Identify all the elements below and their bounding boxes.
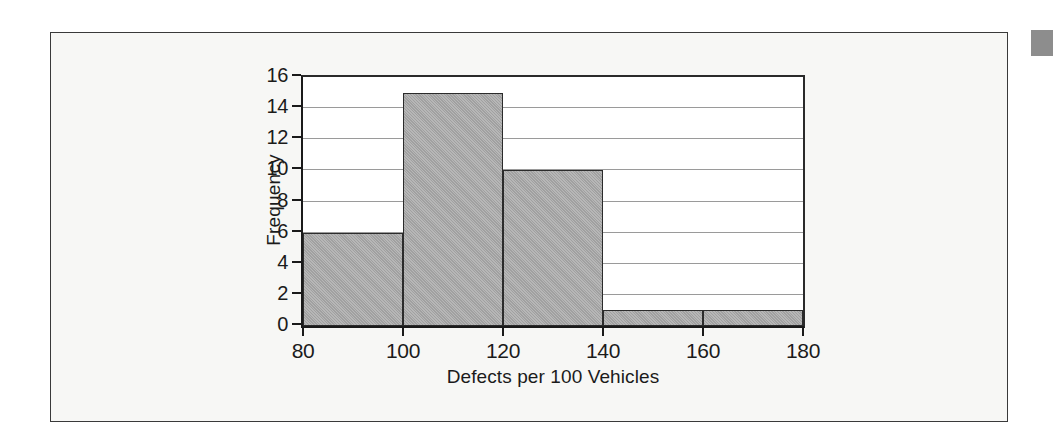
y-axis-tick [292,230,301,232]
y-axis-tick-label: 6 [277,219,288,242]
x-axis-tick [502,326,504,336]
x-axis-tick-label: 160 [686,339,720,363]
histogram-bar [403,93,503,326]
y-axis-tick-label: 12 [267,126,288,149]
figure-card: Frequency 0246810121416 8010012014016018… [50,32,1008,422]
y-axis-tick-label: 16 [267,64,288,87]
x-axis-tick [402,326,404,336]
y-axis-tick [292,167,301,169]
corner-marker-block [1031,30,1053,56]
histogram-bar [303,233,403,326]
plot-area [301,75,805,328]
histogram-bar [503,170,603,326]
y-axis-ticks: 0246810121416 [301,75,302,324]
y-axis-tick [292,323,301,325]
x-axis-tick [302,326,304,336]
x-axis-tick [802,326,804,336]
y-axis-tick-label: 0 [277,313,288,336]
histogram-chart: Frequency 0246810121416 8010012014016018… [51,33,1009,423]
y-axis-tick-label: 14 [267,95,288,118]
y-axis-tick [292,74,301,76]
y-axis-tick-label: 10 [267,157,288,180]
histogram-bar [603,310,703,326]
page-root: Frequency 0246810121416 8010012014016018… [0,0,1053,445]
y-axis-tick [292,136,301,138]
y-axis-tick-label: 8 [277,188,288,211]
x-axis-tick [702,326,704,336]
x-axis-ticks: 80100120140160180 [303,326,803,370]
y-axis-tick-label: 2 [277,281,288,304]
x-axis-tick-label: 100 [386,339,420,363]
x-axis-tick [602,326,604,336]
y-axis-tick-label: 4 [277,250,288,273]
y-axis-tick [292,292,301,294]
y-axis-tick [292,261,301,263]
x-axis-tick-label: 80 [292,339,315,363]
histogram-bar [703,310,803,326]
y-axis-tick [292,199,301,201]
x-axis-tick-label: 140 [586,339,620,363]
x-axis-tick-label: 180 [786,339,820,363]
x-axis-tick-label: 120 [486,339,520,363]
bar-series [303,77,803,326]
y-axis-tick [292,105,301,107]
x-axis-title: Defects per 100 Vehicles [303,366,803,388]
